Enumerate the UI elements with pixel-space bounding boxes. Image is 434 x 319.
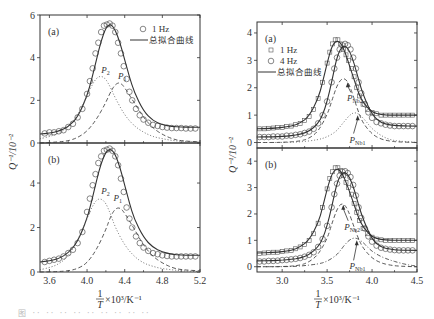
- data-point: [258, 252, 262, 256]
- chart-panel-left-a: 0246(a)P2P11 Hz总拟合曲线: [30, 10, 200, 149]
- series-line-P2: [40, 199, 200, 272]
- legend-label: 1 Hz: [152, 24, 169, 34]
- data-point: [133, 234, 139, 240]
- x-tick-label: 3.0: [276, 275, 289, 286]
- y-tick-label: 3: [247, 55, 252, 66]
- peak-label: PNb2: [346, 93, 363, 104]
- y-tick-label: 2: [247, 82, 252, 93]
- legend-circle-icon: [140, 26, 146, 32]
- y-tick-label: 4: [247, 156, 252, 167]
- legend-label: 总拟合曲线: [277, 67, 322, 77]
- x-tick-label: 5.2: [194, 275, 207, 286]
- x-tick-label: 4.5: [411, 275, 424, 286]
- chart-panel-left-b: 3.64.04.44.85.2024(b)P2P1: [30, 143, 206, 286]
- series-line-P1: [40, 83, 200, 143]
- series-line-总拟合曲线: [40, 150, 200, 262]
- data-point: [124, 205, 130, 211]
- legend-circle-icon: [268, 58, 274, 64]
- legend-label: 总拟合曲线: [149, 35, 194, 45]
- legend-label: 1 Hz: [280, 45, 297, 55]
- peak-label: PNb1: [349, 261, 366, 272]
- legend: 1 Hz4 Hz总拟合曲线: [258, 45, 322, 77]
- peak-label: P1: [117, 71, 127, 82]
- y-tick-label: 0: [30, 267, 35, 278]
- panel-label: (b): [48, 154, 60, 166]
- panel-label: (a): [48, 26, 59, 38]
- legend-label: 4 Hz: [280, 56, 297, 66]
- legend: 1 Hz总拟合曲线: [130, 24, 194, 45]
- x-label-numerator: 1: [316, 288, 321, 299]
- arrow-icon: [354, 119, 358, 133]
- y-tick-label: 1: [247, 110, 252, 121]
- y-tick-label: 2: [30, 222, 35, 233]
- x-tick-label: 3.5: [321, 275, 334, 286]
- panel-label: (b): [265, 159, 277, 171]
- y-tick-label: 0: [247, 137, 252, 148]
- arrow-head-icon: [355, 240, 359, 245]
- right-y-axis-label: Q⁻¹/10⁻²: [227, 136, 238, 173]
- y-tick-label: 0: [247, 261, 252, 272]
- y-tick-label: 4: [30, 178, 35, 189]
- series-line-P_Nb2: [257, 79, 417, 143]
- y-tick-label: 0: [30, 138, 35, 149]
- x-tick-label: 4.0: [366, 275, 379, 286]
- y-tick-label: 3: [247, 182, 252, 193]
- series-line-P2: [40, 76, 200, 141]
- peak-label: PNb1: [349, 135, 366, 146]
- data-point: [133, 106, 139, 112]
- right-x-axis-label: 1 T ×10³/K⁻¹: [314, 288, 360, 310]
- y-tick-label: 4: [30, 52, 35, 63]
- x-label-units: ×10³/K⁻¹: [105, 294, 142, 305]
- x-tick-label: 3.6: [43, 275, 56, 286]
- x-tick-label: 4.4: [118, 275, 131, 286]
- series-line-总拟合曲线-1-Hz-: [257, 169, 417, 253]
- arrow-icon: [354, 244, 357, 260]
- y-tick-label: 1: [247, 235, 252, 246]
- panel-label: (a): [265, 33, 276, 45]
- peak-label: P1: [112, 193, 122, 204]
- peak-label: P2: [100, 186, 110, 197]
- figure-caption: 图 ·· ·· ·· ·· ·· ·· ·· ·· ··: [18, 307, 151, 318]
- x-label-units: ×10³/K⁻¹: [323, 294, 360, 305]
- y-tick-label: 2: [247, 208, 252, 219]
- chart-panel-right-a: 01234(a)PNb2PNb11 Hz4 Hz总拟合曲线: [247, 22, 417, 148]
- arrow-head-icon: [356, 115, 360, 120]
- x-label-numerator: 1: [98, 288, 103, 299]
- legend-square-icon: [269, 48, 273, 52]
- series-markers-1-Hz: [258, 166, 415, 256]
- y-tick-label: 6: [30, 10, 35, 21]
- series-markers-1-Hz: [42, 146, 198, 265]
- left-y-axis-label: Q⁻¹/10⁻²: [7, 133, 18, 170]
- x-tick-label: 4.0: [81, 275, 94, 286]
- y-tick-label: 4: [247, 27, 252, 38]
- y-tick-label: 2: [30, 95, 35, 106]
- figure-canvas: 0246(a)P2P11 Hz总拟合曲线 3.64.04.44.85.2024(…: [0, 0, 434, 319]
- series-line-P1: [40, 208, 200, 272]
- peak-label: P2: [100, 65, 110, 76]
- x-label-denominator: T: [315, 299, 322, 310]
- x-tick-label: 4.8: [156, 275, 169, 286]
- arrow-icon: [343, 209, 348, 221]
- chart-panel-right-b: 3.03.54.04.501234(b)PNb2PNb1: [247, 148, 423, 286]
- plot-frame: [40, 143, 200, 272]
- peak-label: PNb2: [343, 222, 360, 233]
